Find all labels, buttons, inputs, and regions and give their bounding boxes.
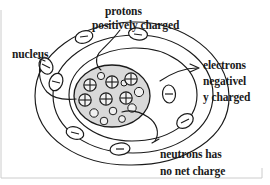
- label-protons-description: positively charged: [92, 18, 179, 32]
- atom-structure-diagram: protons positively charged nucleus elect…: [0, 0, 270, 185]
- electron: [47, 71, 66, 93]
- nucleus: [74, 65, 150, 127]
- neutron: [134, 87, 143, 96]
- proton: [84, 79, 96, 91]
- label-neutrons-description: no net charge: [160, 164, 225, 178]
- neutron: [97, 72, 104, 79]
- neutron: [119, 116, 126, 123]
- neutron: [109, 107, 117, 115]
- label-protons: protons: [105, 4, 142, 18]
- neutron: [90, 109, 98, 117]
- electron: [109, 142, 130, 156]
- label-nucleus: nucleus: [12, 47, 48, 61]
- proton: [106, 76, 118, 88]
- neutron: [100, 117, 108, 125]
- electron: [65, 125, 86, 142]
- electron: [162, 85, 176, 104]
- proton: [125, 73, 137, 85]
- proton: [120, 92, 132, 104]
- label-electrons: electrons: [203, 58, 246, 72]
- label-neutrons: neutrons has: [160, 147, 222, 161]
- proton: [100, 93, 112, 105]
- label-electrons-description-line2: y charged: [203, 90, 250, 104]
- label-electrons-description-line1: negativel: [203, 74, 246, 88]
- proton: [79, 94, 91, 106]
